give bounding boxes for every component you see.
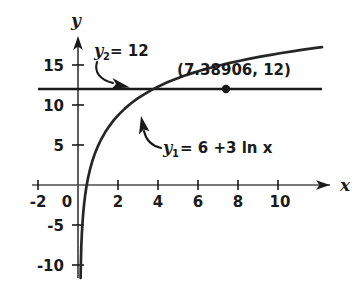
- x-tick-label--2: -2: [30, 193, 47, 211]
- x-tick-label-6: 6: [193, 193, 203, 211]
- y-axis-label: y: [70, 10, 82, 30]
- x-tick-label-4: 4: [153, 193, 163, 211]
- y-tick-label-5: 5: [54, 137, 64, 155]
- intersection-point-label: (7.38906, 12): [177, 61, 291, 79]
- y2-label-subscript: 2: [103, 51, 110, 62]
- x-tick-label-10: 10: [270, 193, 291, 211]
- y-tick-label-10: 10: [43, 97, 64, 115]
- y1-label-rest: = 6 +3 ln x: [180, 139, 273, 157]
- y-tick-label--10: -10: [37, 257, 64, 275]
- x-tick-label-0: 0: [62, 193, 72, 211]
- x-tick-label-8: 8: [233, 193, 243, 211]
- y-tick-label-15: 15: [43, 57, 64, 75]
- x-axis-label: x: [339, 175, 351, 195]
- y2-label-rest: = 12: [110, 42, 149, 60]
- y-tick-label--5: -5: [47, 217, 64, 235]
- graph-figure: -2 0 2 4 6 8 10 15 10 5 -5 -10 y x (7.38…: [0, 0, 364, 289]
- x-tick-label-2: 2: [113, 193, 123, 211]
- intersection-point-marker: [222, 85, 230, 93]
- y1-label-subscript: 1: [172, 148, 179, 159]
